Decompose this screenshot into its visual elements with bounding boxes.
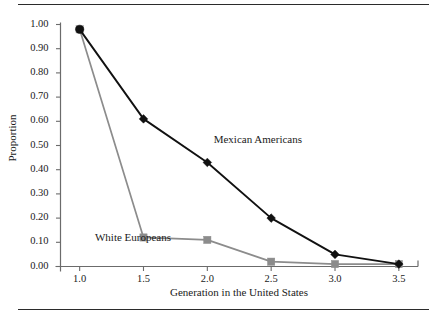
y-tick-label: 0.60 — [13, 114, 49, 125]
x-tick-label: 2.5 — [251, 273, 291, 284]
y-tick-label: 0.10 — [13, 235, 49, 246]
x-tick-label: 1.0 — [60, 273, 100, 284]
x-tick-label: 2.0 — [187, 273, 227, 284]
x-tick-label: 3.0 — [315, 273, 355, 284]
series-label-white-europeans: White Europeans — [95, 231, 171, 243]
y-tick-label: 0.50 — [13, 139, 49, 150]
y-tick-label: 1.00 — [13, 18, 49, 29]
y-tick-label: 0.90 — [13, 42, 49, 53]
x-tick-label: 1.5 — [123, 273, 163, 284]
x-tick-label: 3.5 — [379, 273, 419, 284]
y-tick-label: 0.80 — [13, 66, 49, 77]
y-tick-label: 0.70 — [13, 90, 49, 101]
y-tick-label: 0.30 — [13, 187, 49, 198]
series-label-mexican-americans: Mexican Americans — [214, 133, 302, 145]
y-tick-label: 0.40 — [13, 163, 49, 174]
y-tick-label: 0.20 — [13, 211, 49, 222]
x-axis-title: Generation in the United States — [60, 286, 418, 298]
figure: Proportion Generation in the United Stat… — [0, 0, 447, 321]
y-tick-label: 0.00 — [13, 260, 49, 271]
